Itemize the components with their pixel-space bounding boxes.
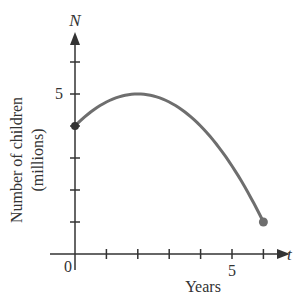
y-axis-arrow-icon <box>70 32 80 45</box>
y-axis-title-line1: Number of children <box>8 97 25 223</box>
axes <box>50 32 290 270</box>
y-axis-variable: N <box>68 11 82 30</box>
x-axis-variable: t <box>287 245 293 264</box>
chart: N t 0 5 5 Years Number of children (mill… <box>0 0 297 300</box>
x-tick-label-5: 5 <box>228 262 236 279</box>
end-point-marker <box>259 218 268 227</box>
data-curve <box>75 94 263 222</box>
start-point-marker <box>71 122 79 130</box>
x-axis-title: Years <box>185 278 221 295</box>
origin-label: 0 <box>64 258 72 275</box>
y-axis-title-line2: (millions) <box>29 128 47 191</box>
y-tick-label-5: 5 <box>55 85 63 102</box>
